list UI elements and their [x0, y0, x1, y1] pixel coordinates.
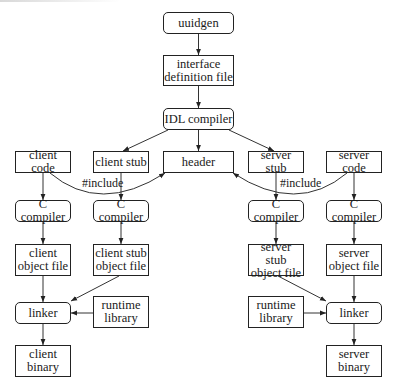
edge-label-include: #include — [82, 176, 123, 191]
node-server-stub-obj: server stub object file — [248, 244, 304, 276]
node-server-cc: C compiler — [326, 200, 382, 222]
node-server-obj: server object file — [326, 244, 382, 276]
node-server-stub: server stub — [248, 151, 304, 173]
node-client-stub-obj: client stub object file — [93, 244, 149, 276]
node-server-linker: linker — [326, 302, 382, 324]
node-client-binary: client binary — [15, 345, 71, 377]
node-server-runtime: runtime library — [248, 296, 304, 328]
node-server-binary: server binary — [326, 345, 382, 377]
node-client-stub: client stub — [93, 151, 149, 173]
node-idl-compiler: IDL compiler — [163, 108, 234, 130]
node-client-linker: linker — [15, 302, 71, 324]
node-server-code: server code — [326, 151, 382, 173]
edge-idlcompiler-clientstub — [123, 130, 168, 151]
node-client-runtime: runtime library — [93, 296, 149, 328]
node-client-code: client code — [15, 151, 71, 173]
edge-label-include: #include — [280, 176, 321, 191]
node-idl-file: interface definition file — [163, 55, 234, 86]
node-client-cc: C compiler — [15, 200, 71, 222]
node-client-stub-cc: C compiler — [93, 200, 149, 222]
node-server-stub-cc: C compiler — [248, 200, 304, 222]
node-header: header — [163, 151, 234, 173]
node-uuidgen: uuidgen — [163, 12, 234, 34]
node-client-obj: client object file — [15, 244, 71, 276]
